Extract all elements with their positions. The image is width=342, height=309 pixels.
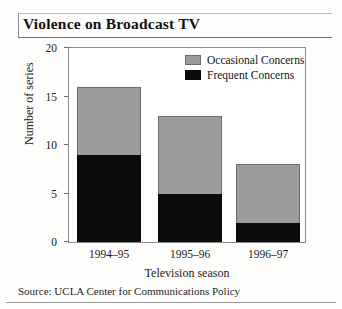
title-divider (18, 37, 332, 38)
x-tick-label-1995-96: 1995–96 (170, 248, 210, 260)
y-tick-label-10: 10 (46, 139, 58, 151)
title-block: Violence on Broadcast TV (18, 13, 332, 37)
legend-swatch-frequent-icon (185, 70, 201, 80)
bar-1996-97[interactable]: 1996–97 (236, 164, 300, 242)
plot-inner: 0 5 10 15 20 1994–95 (69, 48, 305, 242)
y-axis-label: Number of series (22, 62, 37, 145)
y-tick-mark-10: 10 (64, 144, 69, 145)
bar-1994-95-frequent-segment (77, 155, 141, 242)
legend-item-occasional[interactable]: Occasional Concerns (185, 53, 304, 67)
y-tick-mark-20: 20 (64, 47, 69, 48)
y-tick-mark-0: 0 (64, 241, 69, 242)
y-tick-label-0: 0 (51, 236, 57, 248)
legend-label-frequent: Frequent Concerns (207, 69, 294, 81)
bottom-divider (6, 302, 336, 303)
y-tick-mark-15: 15 (64, 96, 69, 97)
bar-1995-96-frequent-segment (158, 194, 222, 242)
source-note: Source: UCLA Center for Communications P… (18, 285, 240, 297)
bar-1996-97-frequent-segment (236, 223, 300, 242)
y-tick-label-20: 20 (46, 42, 58, 54)
figure-container: Violence on Broadcast TV Number of serie… (0, 0, 342, 309)
bar-1996-97-occasional-segment (236, 164, 300, 222)
legend-label-occasional: Occasional Concerns (207, 54, 304, 66)
y-tick-label-15: 15 (46, 91, 58, 103)
y-tick-mark-5: 5 (64, 193, 69, 194)
bar-1995-96[interactable]: 1995–96 (158, 116, 222, 242)
x-tick-label-1994-95: 1994–95 (89, 248, 129, 260)
legend: Occasional Concerns Frequent Concerns (185, 53, 304, 83)
x-tick-label-1996-97: 1996–97 (248, 248, 288, 260)
bar-1994-95-occasional-segment (77, 87, 141, 155)
bar-1994-95[interactable]: 1994–95 (77, 87, 141, 242)
y-tick-label-5: 5 (51, 188, 57, 200)
legend-item-frequent[interactable]: Frequent Concerns (185, 68, 304, 82)
page-title: Violence on Broadcast TV (23, 15, 200, 33)
legend-swatch-occasional-icon (185, 55, 201, 65)
x-axis-label: Television season (68, 266, 306, 281)
bar-1995-96-occasional-segment (158, 116, 222, 194)
plot-area: 0 5 10 15 20 1994–95 (68, 47, 306, 243)
